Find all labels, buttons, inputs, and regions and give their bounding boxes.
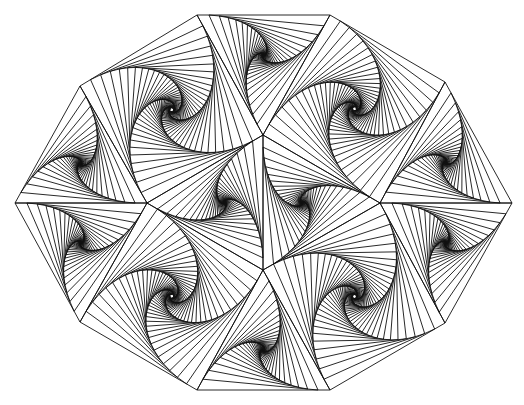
tile-lower-left-rhombus — [80, 203, 263, 390]
tile-upper-left-rhombus — [80, 15, 263, 203]
tile-lower-right-rhombus — [263, 203, 445, 390]
tile-upper-right-rhombus — [263, 15, 445, 203]
pursuit-spiral-tiling — [0, 0, 524, 405]
tile-left-lower-triangle — [15, 203, 147, 322]
artwork-canvas: Pursuit-curve spiral tiling — [0, 0, 524, 405]
